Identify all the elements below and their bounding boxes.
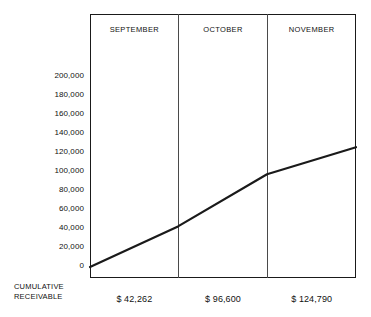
footer-row-label: CUMULATIVE RECEIVABLE [14,282,88,301]
footer-row: CUMULATIVE RECEIVABLE $ 42,262 $ 96,600 … [0,281,371,317]
plot-area-frame [90,14,356,278]
footer-values: $ 42,262 $ 96,600 $ 124,790 [90,287,356,311]
chart-container: SEPTEMBER OCTOBER NOVEMBER 200,000 180,0… [0,0,371,317]
y-tick-0: 0 [0,261,84,270]
footer-row-label-line2: RECEIVABLE [14,292,88,302]
y-tick-180000: 180,000 [0,90,84,99]
month-divider-september-october [178,14,179,278]
y-tick-80000: 80,000 [0,185,84,194]
y-tick-160000: 160,000 [0,109,84,118]
y-tick-60000: 60,000 [0,204,84,213]
y-tick-140000: 140,000 [0,128,84,137]
footer-value-november: $ 124,790 [267,287,356,311]
y-tick-100000: 100,000 [0,166,84,175]
y-axis-labels: 200,000 180,000 160,000 140,000 120,000 … [0,0,84,317]
y-tick-20000: 20,000 [0,242,84,251]
y-tick-120000: 120,000 [0,147,84,156]
month-divider-october-november [267,14,268,278]
footer-row-label-line1: CUMULATIVE [14,282,88,292]
footer-value-october: $ 96,600 [179,287,268,311]
footer-value-september: $ 42,262 [90,287,179,311]
y-tick-40000: 40,000 [0,223,84,232]
y-tick-200000: 200,000 [0,71,84,80]
